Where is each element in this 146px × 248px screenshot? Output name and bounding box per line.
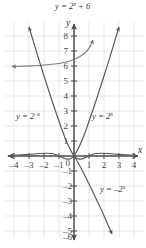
svg-text:y = –2x: y = –2x — [99, 183, 126, 194]
x-tick-label: –3 — [24, 160, 35, 170]
x-tick-labels: –4 –3 –2 –1 1 2 3 4 — [9, 160, 137, 170]
y-tick-label: 5 — [64, 76, 69, 86]
y-tick-label: –3 — [62, 196, 73, 206]
annot-exponent: –x — [33, 110, 40, 117]
annot-base: y = 2 — [15, 111, 35, 121]
x-tick-label: 2 — [102, 160, 107, 170]
y-tick-label: 3 — [64, 106, 69, 116]
y-tick-label: 1 — [64, 136, 69, 146]
annot-base: y = 2 — [91, 111, 111, 121]
y-tick-labels: 8 7 6 5 4 3 2 1 –1 –2 –3 –4 –5 –6 — [62, 31, 73, 242]
x-tick-label: 4 — [132, 160, 137, 170]
y-tick-label: –4 — [62, 211, 73, 221]
x-tick-label: 3 — [117, 160, 122, 170]
y-tick-label: 8 — [64, 31, 69, 41]
y-tick-label: –2 — [62, 181, 72, 191]
annotation-2-x: y = 2x — [91, 110, 113, 121]
svg-text:y = 2x: y = 2x — [91, 110, 113, 121]
annot-base: y = 2 — [54, 1, 74, 11]
annotation-2x-plus-6: y = 2x + 6 — [54, 0, 91, 11]
x-tick-label: 1 — [87, 160, 92, 170]
origin-label: 0 — [66, 158, 71, 168]
x-tick-label: –2 — [39, 160, 49, 170]
svg-text:y = 2x + 6: y = 2x + 6 — [54, 0, 91, 11]
axes — [8, 24, 138, 240]
x-tick-label: –4 — [9, 160, 20, 170]
annot-tail: + 6 — [76, 1, 91, 11]
svg-text:y = 2–x: y = 2–x — [15, 110, 40, 121]
annotation-2-neg-x: y = 2–x — [15, 110, 40, 121]
x-axis-label: x — [137, 145, 143, 155]
y-axis-label: y — [65, 18, 71, 28]
y-tick-label: 7 — [64, 46, 69, 56]
curve-2x-plus-6 — [12, 40, 93, 67]
y-tick-label: –6 — [62, 232, 73, 242]
annot-base: y = –2 — [99, 184, 123, 194]
y-tick-label: 2 — [64, 121, 69, 131]
y-tick-label: 4 — [64, 91, 69, 101]
y-tick-label: 6 — [64, 61, 69, 71]
x-tick-label: –1 — [54, 160, 64, 170]
curve-neg-2-x — [74, 156, 112, 234]
annot-exponent: x — [122, 183, 126, 190]
annot-exponent: x — [109, 110, 113, 117]
annotation-neg-2-x: y = –2x — [99, 183, 126, 194]
graph-figure: –4 –3 –2 –1 1 2 3 4 8 7 6 5 4 3 2 1 –1 –… — [0, 0, 146, 248]
coordinate-plane-svg: –4 –3 –2 –1 1 2 3 4 8 7 6 5 4 3 2 1 –1 –… — [0, 0, 146, 248]
